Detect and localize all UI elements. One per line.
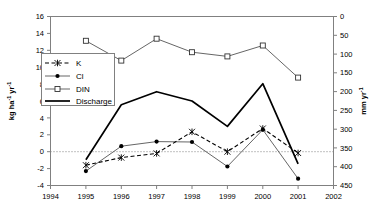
data-point-cl <box>225 164 229 168</box>
y-tick-label: 14 <box>36 29 44 38</box>
data-point-cl <box>119 144 123 148</box>
data-point-din <box>83 38 88 43</box>
chart-legend: K Cl DIN Discharge <box>42 54 115 107</box>
data-point-din <box>119 58 124 63</box>
chart-figure: 16 14 12 10 8 6 4 2 0 <box>0 0 373 212</box>
data-point-din <box>190 50 195 55</box>
line-chart: 16 14 12 10 8 6 4 2 0 <box>0 0 373 212</box>
y-tick-label: 4 <box>40 114 44 123</box>
y2-tick-label: 350 <box>340 144 353 153</box>
y2-tick-label: 100 <box>340 50 353 59</box>
x-tick-label: 2001 <box>290 192 307 201</box>
x-tick-label: 1999 <box>219 192 236 201</box>
data-point-cl <box>155 140 159 144</box>
y-axis-title-base2: yr <box>7 87 16 96</box>
y-tick-label: 2 <box>40 130 44 139</box>
y-axis-right: 0 50 100 150 200 250 300 350 400 <box>334 12 353 190</box>
y2-axis-title-sup1: -1 <box>358 87 364 92</box>
x-axis: 1994 1995 1996 1997 1998 1999 2000 2001 <box>42 186 342 202</box>
y-axis-title-base1: kg ha <box>7 100 16 120</box>
data-point-din <box>260 43 265 48</box>
data-point-cl <box>190 140 194 144</box>
svg-text:mm yr-1: mm yr-1 <box>358 87 368 114</box>
legend-label-k: K <box>76 59 82 68</box>
x-tick-label: 1997 <box>148 192 165 201</box>
y2-tick-label: 300 <box>340 125 353 134</box>
data-point-din <box>225 54 230 59</box>
y-axis-left-title: kg ha-1 yr-1 <box>6 82 16 120</box>
svg-text:kg ha-1 yr-1: kg ha-1 yr-1 <box>6 82 16 120</box>
data-point-din <box>154 36 159 41</box>
y-axis-title-sup2: -1 <box>6 82 12 87</box>
x-tick-label: 1994 <box>42 192 59 201</box>
y2-tick-label: 150 <box>340 68 353 77</box>
y-tick-label: -2 <box>37 164 44 173</box>
y-tick-label: 0 <box>40 147 44 156</box>
y2-axis-title-base1: mm yr <box>359 92 368 115</box>
legend-marker-din <box>55 87 60 92</box>
y2-tick-label: 0 <box>340 12 344 21</box>
data-point-cl <box>296 177 300 181</box>
legend-label-din: DIN <box>76 85 90 94</box>
x-tick-label: 1996 <box>113 192 130 201</box>
y-tick-label: 16 <box>36 12 44 21</box>
data-point-cl <box>84 169 88 173</box>
legend-label-cl: Cl <box>76 72 84 81</box>
legend-marker-cl <box>55 74 59 78</box>
x-tick-label: 2002 <box>325 192 342 201</box>
x-tick-label: 2000 <box>254 192 271 201</box>
data-point-din <box>296 75 301 80</box>
legend-label-discharge: Discharge <box>76 97 113 106</box>
y2-tick-label: 450 <box>340 181 353 190</box>
x-tick-label: 1998 <box>184 192 201 201</box>
x-tick-label: 1995 <box>78 192 95 201</box>
y-axis-right-title: mm yr-1 <box>358 87 368 114</box>
y2-tick-label: 50 <box>340 31 348 40</box>
y2-tick-label: 400 <box>340 162 353 171</box>
y-tick-label: -4 <box>37 181 44 190</box>
y2-tick-label: 200 <box>340 87 353 96</box>
y2-tick-label: 250 <box>340 106 353 115</box>
